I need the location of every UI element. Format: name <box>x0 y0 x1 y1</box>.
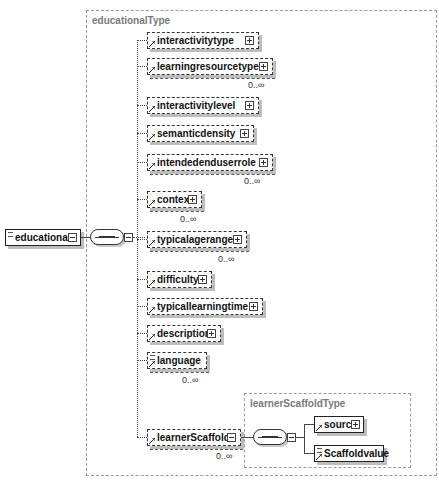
reference-arrow-icon <box>149 307 155 313</box>
cardinality-label: 0..∞ <box>244 176 260 186</box>
element-educational[interactable]: educational <box>5 229 81 246</box>
cardinality-label: 0..∞ <box>182 375 198 385</box>
expand-icon[interactable] <box>245 36 254 45</box>
element-typicallearningtime[interactable]: typicallearningtime <box>147 298 263 315</box>
element-language[interactable]: language <box>147 352 207 369</box>
compositor-collapse-icon[interactable] <box>287 433 296 442</box>
expand-icon[interactable] <box>351 420 360 429</box>
sequence-icon <box>262 436 278 438</box>
element-source[interactable]: source <box>314 416 364 433</box>
sequence-icon <box>99 236 115 238</box>
simple-content-icon <box>317 448 322 453</box>
reference-arrow-icon <box>149 361 155 367</box>
reference-arrow-icon <box>149 41 155 47</box>
reference-arrow-icon <box>149 163 155 169</box>
element-learnerScaffold[interactable]: learnerScaffold <box>147 429 241 446</box>
expand-icon[interactable] <box>240 129 249 138</box>
reference-arrow-icon <box>149 280 155 286</box>
expand-icon[interactable] <box>249 302 258 311</box>
element-interactivitytype[interactable]: interactivitytype <box>147 32 259 49</box>
reference-arrow-icon <box>316 425 322 431</box>
element-difficulty[interactable]: difficulty <box>147 271 212 288</box>
reference-arrow-icon <box>149 334 155 340</box>
collapse-icon[interactable] <box>68 233 77 242</box>
element-description[interactable]: description <box>147 325 221 342</box>
learner-scaffold-type-label: learnerScaffoldType <box>250 398 345 409</box>
reference-arrow-icon <box>149 240 155 246</box>
element-label: educational <box>15 232 71 243</box>
element-learningresourcetype[interactable]: learningresourcetype <box>147 58 273 75</box>
element-typicalagerange[interactable]: typicalagerange <box>147 231 247 248</box>
cardinality-label: 0..∞ <box>218 254 234 264</box>
expand-icon[interactable] <box>198 275 207 284</box>
educational-type-label: educationalType <box>92 15 170 26</box>
expand-icon[interactable] <box>245 101 254 110</box>
element-Scaffoldvalue[interactable]: Scaffoldvalue <box>314 445 384 462</box>
collapse-icon[interactable] <box>227 433 236 442</box>
reference-arrow-icon <box>149 67 155 73</box>
cardinality-label: 0..∞ <box>248 80 264 90</box>
inner-sequence-compositor[interactable] <box>253 429 287 445</box>
simple-content-icon <box>150 355 155 360</box>
cardinality-label: 0..∞ <box>180 214 196 224</box>
reference-arrow-icon <box>149 200 155 206</box>
reference-arrow-icon <box>316 454 322 460</box>
expand-icon[interactable] <box>233 235 242 244</box>
reference-arrow-icon <box>149 438 155 444</box>
simple-content-icon <box>8 232 13 237</box>
expand-icon[interactable] <box>259 158 268 167</box>
reference-arrow-icon <box>149 106 155 112</box>
reference-arrow-icon <box>149 134 155 140</box>
sequence-compositor[interactable] <box>90 229 124 245</box>
expand-icon[interactable] <box>207 329 216 338</box>
element-intendedenduserrole[interactable]: intendedenduserrole <box>147 154 273 171</box>
cardinality-label: 0..∞ <box>216 451 232 461</box>
element-interactivitylevel[interactable]: interactivitylevel <box>147 97 259 114</box>
compositor-collapse-icon[interactable] <box>124 233 133 242</box>
element-context[interactable]: context <box>147 191 202 208</box>
expand-icon[interactable] <box>188 195 197 204</box>
element-semanticdensity[interactable]: semanticdensity <box>147 125 254 142</box>
expand-icon[interactable] <box>259 62 268 71</box>
